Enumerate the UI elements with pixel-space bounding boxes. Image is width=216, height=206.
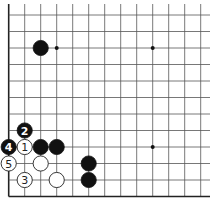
move-number: 3	[21, 174, 28, 187]
black-stone-icon	[33, 139, 48, 154]
black-stone-icon	[49, 139, 64, 154]
black-stone-icon	[33, 40, 48, 55]
star-point-icon	[151, 145, 155, 149]
move-number: 2	[21, 125, 29, 138]
black-stone-move-2: 2	[17, 123, 32, 138]
white-stone-move-3: 3	[17, 172, 32, 187]
black-stone	[49, 139, 64, 154]
move-number: 5	[5, 158, 12, 171]
black-stone	[81, 156, 96, 171]
white-stone	[33, 156, 48, 171]
star-point-icon	[55, 46, 59, 50]
black-stone	[33, 40, 48, 55]
black-stone-icon	[81, 172, 96, 187]
black-stone-icon	[81, 156, 96, 171]
black-stone	[81, 172, 96, 187]
white-stone-icon	[49, 172, 64, 187]
white-stone-icon	[33, 156, 48, 171]
go-board: 24153	[0, 0, 216, 206]
move-number: 1	[21, 141, 28, 154]
white-stone-move-5: 5	[1, 156, 16, 171]
white-stone-move-1: 1	[17, 139, 32, 154]
white-stone	[49, 172, 64, 187]
black-stone	[33, 139, 48, 154]
black-stone-move-4: 4	[1, 139, 16, 154]
move-number: 4	[5, 141, 13, 154]
star-point-icon	[151, 46, 155, 50]
